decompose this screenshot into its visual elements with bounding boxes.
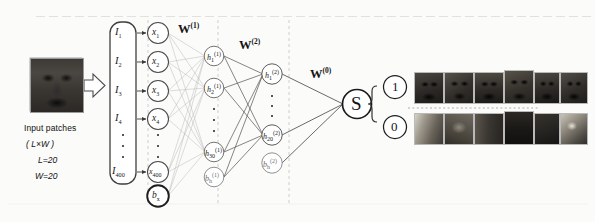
softmax-label: S <box>351 94 362 113</box>
x-node-1-label: x1 <box>152 28 159 39</box>
h1-node-2-sup: (1) <box>214 83 221 89</box>
h1-layer-circles <box>204 46 224 162</box>
input-caption-line2: ( L×W ) <box>26 140 54 149</box>
output-label-1: 1 <box>392 80 399 93</box>
x-node-3-label: x3 <box>152 86 159 97</box>
weight-label-w1: W(1) <box>178 22 199 36</box>
input-vector-entry-3-sub: 3 <box>119 90 122 97</box>
x-node-3-sub: 3 <box>156 91 159 97</box>
bias-bh2-sup: (2) <box>270 158 277 164</box>
h1-node-1-sup: (1) <box>214 51 221 57</box>
bias-node-bx-label: bx <box>152 191 160 202</box>
input-vector-container <box>110 22 136 184</box>
input-vector-entry-2-sub: 2 <box>119 61 122 68</box>
x-node-4-sub: 4 <box>156 119 159 125</box>
input-to-neuron-arrows <box>137 33 146 172</box>
output-patch-1-5 <box>534 72 560 104</box>
weight-w2-sup: (2) <box>252 37 261 46</box>
weight-w2-symbol: W <box>239 38 252 52</box>
output-patch-0-5 <box>534 113 560 145</box>
x-layer-circles <box>148 23 169 183</box>
input-caption-line1: Input patches <box>24 124 76 133</box>
h1-node-2-sub: 2 <box>211 89 214 95</box>
input-vector-entry-3: I3 <box>115 85 122 97</box>
neural-network-figure: Input patches ( L×W ) L=20 W=20 I1 I2 I3… <box>0 0 595 222</box>
h1-node-2-label: h2(1) <box>207 83 221 95</box>
weight-w0-symbol: W <box>310 67 323 81</box>
h2-node-20-label: h20(2) <box>263 130 280 142</box>
h2-layer-ellipsis <box>269 95 275 117</box>
input-vector-entry-400: I400 <box>112 166 125 178</box>
bias-bx-sub: x <box>157 196 160 202</box>
output-brace <box>368 86 377 122</box>
weight-label-w0: W(0) <box>310 67 331 81</box>
input-vector-entry-1: I1 <box>115 27 122 39</box>
block-arrow-right <box>84 74 105 97</box>
h1-layer-ellipsis <box>211 108 217 132</box>
bias-node-bh1-label: bh(1) <box>205 172 219 184</box>
bias-bh2-sub: h <box>267 164 270 170</box>
x-node-1-sub: 1 <box>156 33 159 39</box>
x-node-2-label: x2 <box>152 57 159 68</box>
input-face-patch-thumbnail <box>30 58 84 113</box>
input-caption-line3: L=20 <box>38 156 57 165</box>
output-patch-1-2 <box>444 72 474 104</box>
h2-node-1-sub: 1 <box>269 75 272 81</box>
edges-h2-to-softmax <box>282 74 343 163</box>
h2-node-1-sup: (2) <box>272 69 279 75</box>
output-patch-1-4 <box>504 70 534 104</box>
h1-node-30-sub: 30 <box>209 153 215 159</box>
input-vector-entry-400-sub: 400 <box>116 171 125 178</box>
output-label-0: 0 <box>391 120 398 133</box>
input-vector-entry-2: I2 <box>115 56 122 68</box>
bias-bh1-sup: (1) <box>212 172 219 178</box>
weight-w1-sup: (1) <box>191 21 200 30</box>
output-patch-1-1 <box>414 72 444 104</box>
x-node-4-label: x4 <box>152 114 159 125</box>
edges-x-to-h1 <box>168 33 205 196</box>
bias-bh1-sub: h <box>209 178 212 184</box>
h2-node-20-sup: (2) <box>273 130 280 136</box>
h1-node-30-sup: (1) <box>215 147 222 153</box>
x-node-2-sub: 2 <box>156 62 159 68</box>
weight-w1-symbol: W <box>178 22 191 36</box>
input-vector-entry-4-sub: 4 <box>119 118 122 125</box>
input-caption-line4: W=20 <box>35 172 57 181</box>
h1-node-30-label: h30(1) <box>205 147 222 159</box>
h2-node-20-sub: 20 <box>267 136 273 142</box>
h1-node-1-label: h1(1) <box>207 51 221 63</box>
h2-node-1-label: h1(2) <box>265 69 279 81</box>
output-patch-0-3 <box>474 113 504 145</box>
bias-node-bh2-label: bh(2) <box>263 158 277 170</box>
x-node-400-label: x400 <box>149 168 162 178</box>
output-patch-0-2 <box>444 113 474 145</box>
edges-h1-to-h2 <box>224 56 263 177</box>
input-vector-entry-1-sub: 1 <box>119 32 122 39</box>
output-patch-1-3 <box>474 72 504 104</box>
output-patch-0-4 <box>504 111 534 145</box>
weight-w0-sup: (0) <box>323 66 332 75</box>
x-node-400-sub: 400 <box>153 172 162 178</box>
input-vector-entry-4: I4 <box>115 113 122 125</box>
weight-label-w2: W(2) <box>239 38 260 52</box>
output-patch-0-1 <box>414 113 444 145</box>
x-layer-ellipsis <box>155 134 161 158</box>
input-vector-ellipsis <box>120 134 126 158</box>
output-patch-1-6 <box>560 72 588 104</box>
h1-node-1-sub: 1 <box>211 57 214 63</box>
output-patch-0-6 <box>560 113 588 145</box>
